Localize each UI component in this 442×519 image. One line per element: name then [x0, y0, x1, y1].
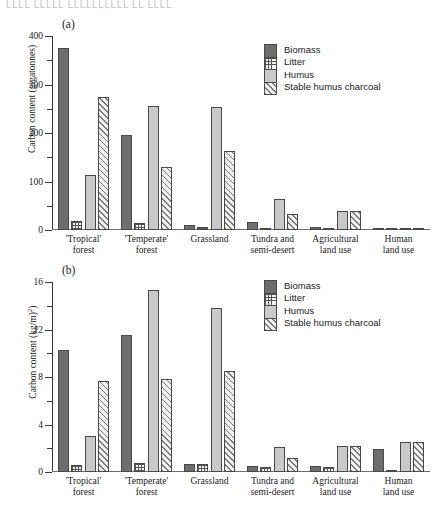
bar-humus [274, 199, 285, 230]
bar-humus [148, 290, 159, 472]
y-tick-major [45, 425, 52, 426]
y-tick-label: 400 [29, 31, 43, 41]
y-tick-label: 0 [38, 225, 43, 235]
bar-litter [386, 470, 397, 472]
legend-label-biomass: Biomass [284, 280, 381, 292]
legend-swatch-biomass [265, 45, 276, 57]
y-tick-major [45, 133, 52, 134]
bar-biomass [373, 449, 384, 472]
bar-biomass [58, 350, 69, 472]
chart-panel-a: (a) Carbon content (gigatonnes) 01002003… [0, 14, 442, 258]
legend-swatch-humus [265, 69, 276, 82]
y-tick-label: 16 [34, 277, 44, 287]
bar-stable-humus-charcoal [224, 151, 235, 230]
y-tick-label: 12 [34, 325, 44, 335]
legend-swatch-humus [265, 305, 276, 318]
legend-swatch-litter [265, 293, 276, 306]
bar-stable-humus-charcoal [98, 381, 109, 472]
bar-biomass [121, 335, 132, 472]
bar-biomass [184, 225, 195, 230]
legend-label-charcoal: Stable humus charcoal [284, 81, 381, 93]
panel-label-b: (b) [62, 264, 75, 276]
bar-humus [211, 107, 222, 230]
y-tick-major [45, 36, 52, 37]
bar-litter [71, 465, 82, 472]
bar-litter [260, 228, 271, 230]
bar-stable-humus-charcoal [224, 371, 235, 472]
bar-litter [134, 223, 145, 230]
bar-group [52, 282, 115, 472]
bar-stable-humus-charcoal [350, 446, 361, 472]
bar-biomass [310, 227, 321, 230]
page-header-fragment: LLLL LLLLL LLLLLLLLLL LL LLLL [6, 0, 336, 9]
bar-humus [85, 436, 96, 472]
bar-litter [386, 228, 397, 230]
bar-humus [337, 446, 348, 472]
bar-litter [71, 221, 82, 230]
bar-stable-humus-charcoal [98, 97, 109, 230]
bar-group [115, 282, 178, 472]
y-tick-label: 300 [29, 80, 43, 90]
bar-humus [148, 106, 159, 230]
legend-swatch-biomass [265, 281, 276, 293]
legend-label-charcoal: Stable humus charcoal [284, 317, 381, 329]
y-axis-label-b: Carbon content (kg/m)2) [26, 282, 38, 422]
bar-humus [211, 308, 222, 472]
bar-biomass [247, 466, 258, 472]
y-tick-major [45, 282, 52, 283]
bar-group [178, 36, 241, 230]
legend-label-humus: Humus [284, 305, 381, 317]
legend-swatch-charcoal [265, 82, 276, 95]
y-tick-label: 0 [38, 467, 43, 477]
legend-labels-b: BiomassLitterHumusStable humus charcoal [284, 280, 381, 329]
bar-stable-humus-charcoal [413, 228, 424, 230]
bar-humus [337, 211, 348, 230]
bar-biomass [121, 135, 132, 230]
y-tick-label: 200 [29, 128, 43, 138]
bar-humus [400, 442, 411, 472]
bar-group [178, 282, 241, 472]
legend-label-humus: Humus [284, 69, 381, 81]
legend-swatch-litter [265, 57, 276, 70]
y-tick-major [45, 85, 52, 86]
panel-label-a: (a) [62, 18, 75, 30]
y-tick-major [45, 230, 52, 231]
y-tick-major [45, 330, 52, 331]
legend-label-biomass: Biomass [284, 44, 381, 56]
legend-swatch-charcoal [265, 318, 276, 331]
bar-litter [197, 464, 208, 472]
bar-litter [197, 227, 208, 230]
legend-label-litter: Litter [284, 292, 381, 304]
x-category-label: Human land use [359, 476, 439, 498]
y-tick-label: 100 [29, 177, 43, 187]
y-tick-major [45, 377, 52, 378]
bar-biomass [373, 228, 384, 230]
y-tick-major [45, 472, 52, 473]
bar-litter [323, 228, 334, 230]
x-category-label: Human land use [359, 234, 439, 256]
bar-stable-humus-charcoal [287, 214, 298, 230]
y-tick-label: 8 [38, 372, 43, 382]
bar-humus [400, 228, 411, 230]
bar-litter [260, 467, 271, 472]
bar-stable-humus-charcoal [350, 211, 361, 230]
bar-humus [274, 447, 285, 472]
bar-stable-humus-charcoal [161, 379, 172, 472]
bar-group [115, 36, 178, 230]
bar-litter [323, 467, 334, 472]
chart-panel-b: (b) Carbon content (kg/m)2) 0481216 'Tro… [0, 258, 442, 519]
legend-labels-a: BiomassLitterHumusStable humus charcoal [284, 44, 381, 93]
bar-biomass [247, 222, 258, 230]
bar-biomass [310, 466, 321, 472]
bar-stable-humus-charcoal [413, 442, 424, 472]
bar-group [52, 36, 115, 230]
legend-swatches-b [264, 280, 277, 331]
bar-biomass [184, 464, 195, 472]
bar-biomass [58, 48, 69, 230]
y-tick-label: 4 [38, 420, 43, 430]
bar-stable-humus-charcoal [287, 458, 298, 472]
y-tick-major [45, 182, 52, 183]
y-axis-label-a: Carbon content (gigatonnes) [27, 29, 37, 169]
legend-label-litter: Litter [284, 56, 381, 68]
bar-stable-humus-charcoal [161, 167, 172, 230]
